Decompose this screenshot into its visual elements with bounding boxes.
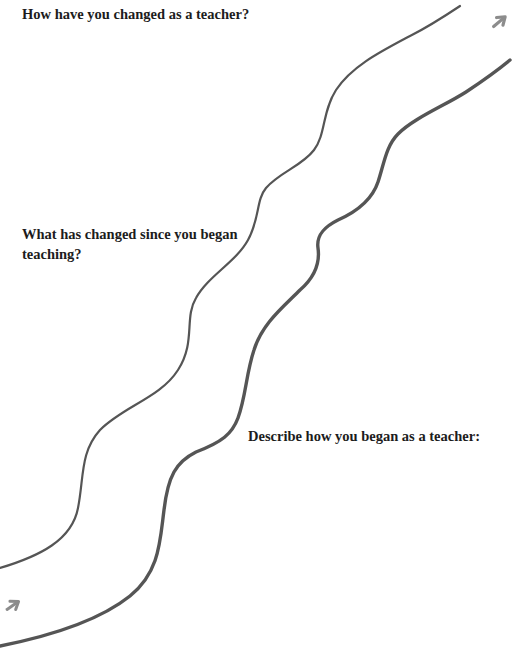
answer-area-how-changed[interactable]: [0, 28, 300, 208]
answer-area-what-changed[interactable]: [0, 270, 200, 420]
arrow-bottom-left-icon: [4, 597, 21, 613]
prompt-what-changed: What has changed since you began teachin…: [22, 224, 242, 264]
prompt-how-began: Describe how you began as a teacher:: [248, 426, 514, 446]
arrow-top-right-icon: [490, 13, 508, 30]
answer-area-how-began[interactable]: [248, 450, 508, 640]
prompt-how-changed: How have you changed as a teacher?: [22, 4, 342, 24]
